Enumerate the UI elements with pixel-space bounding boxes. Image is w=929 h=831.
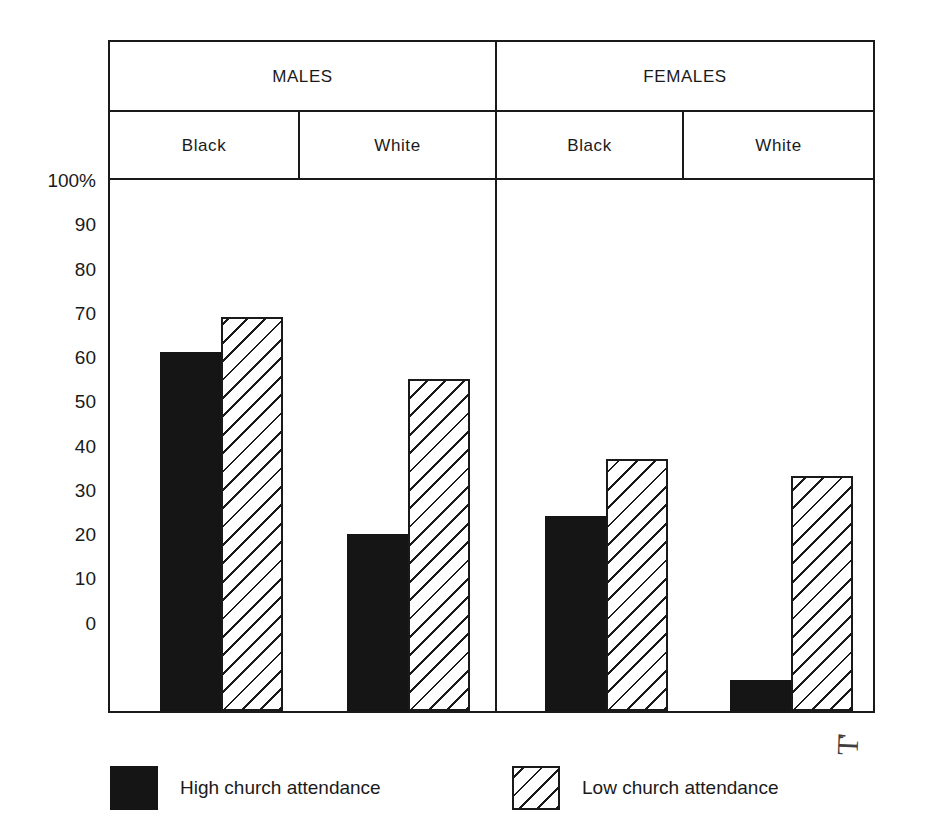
header-group-males: MALES	[110, 42, 495, 112]
chart-legend: High church attendance Low church attend…	[108, 765, 808, 815]
y-tick-0: 0	[85, 613, 96, 632]
y-tick-40: 40	[75, 436, 96, 455]
legend-label-high: High church attendance	[180, 777, 381, 799]
bar-females-black-low	[606, 459, 668, 711]
legend-swatch-hatch-icon	[512, 766, 560, 810]
legend-item-low-attendance: Low church attendance	[512, 765, 778, 811]
header-row-race: Black White Black White	[110, 110, 873, 180]
y-tick-50: 50	[75, 392, 96, 411]
header-cell-female-white: White	[682, 112, 873, 180]
y-tick-20: 20	[75, 525, 96, 544]
bar-males-white-low	[408, 379, 470, 711]
header-cell-female-black: Black	[495, 112, 682, 180]
y-axis: 100% 90 80 70 60 50 40 30 20 10 0	[0, 180, 104, 713]
header-cell-male-white: White	[298, 112, 495, 180]
y-tick-70: 70	[75, 303, 96, 322]
bar-females-black-high	[545, 516, 606, 711]
header-row-sex: MALES FEMALES	[110, 42, 873, 112]
handwritten-scan-mark: T'	[831, 735, 866, 756]
legend-label-low: Low church attendance	[582, 777, 778, 799]
bars-layer	[108, 180, 875, 711]
y-tick-100: 100%	[47, 171, 96, 190]
bar-males-black-low	[221, 317, 283, 711]
y-tick-60: 60	[75, 348, 96, 367]
bar-males-black-high	[160, 352, 221, 711]
y-tick-30: 30	[75, 480, 96, 499]
bar-females-white-high	[730, 680, 791, 711]
header-group-females: FEMALES	[495, 42, 873, 112]
legend-item-high-attendance: High church attendance	[110, 765, 381, 811]
y-tick-80: 80	[75, 259, 96, 278]
y-tick-10: 10	[75, 569, 96, 588]
chart-header-table: MALES FEMALES Black White Black White	[108, 40, 875, 180]
y-tick-90: 90	[75, 215, 96, 234]
header-cell-male-black: Black	[110, 112, 298, 180]
bar-males-white-high	[347, 534, 408, 711]
grouped-bar-chart: MALES FEMALES Black White Black White 10…	[0, 0, 929, 831]
legend-swatch-solid-icon	[110, 766, 158, 810]
bar-females-white-low	[791, 476, 853, 711]
